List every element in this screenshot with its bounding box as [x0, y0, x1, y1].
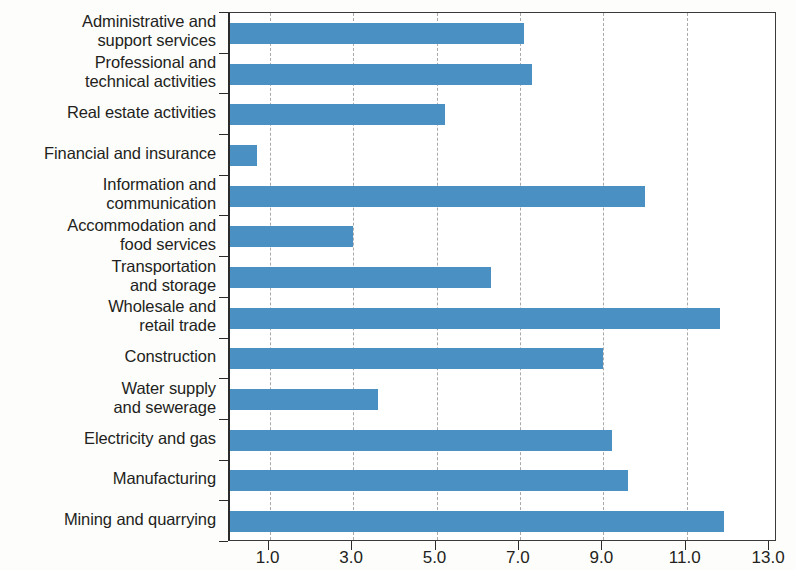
y-axis-tick	[219, 53, 228, 54]
category-label: Manufacturing	[0, 469, 216, 488]
category-label: Mining and quarrying	[0, 510, 216, 529]
x-axis-tick-label: 1.0	[233, 548, 303, 568]
y-axis-tick	[219, 215, 228, 216]
y-axis-tick	[219, 134, 228, 135]
category-label: Electricity and gas	[0, 429, 216, 448]
category-label: Transportation and storage	[0, 257, 216, 295]
x-axis-tick-label: 9.0	[566, 548, 636, 568]
bar	[230, 348, 603, 369]
bar	[230, 104, 445, 125]
bar	[230, 511, 724, 532]
bar	[230, 308, 720, 329]
category-label: Accommodation and food services	[0, 216, 216, 254]
bar	[230, 64, 532, 85]
gridline	[603, 13, 604, 540]
horizontal-bar-chart: Administrative and support servicesProfe…	[0, 0, 796, 570]
bar	[230, 186, 645, 207]
y-axis-tick	[219, 338, 228, 339]
y-axis-tick	[219, 175, 228, 176]
bar	[230, 267, 491, 288]
bar	[230, 145, 257, 166]
gridline	[687, 13, 688, 540]
category-label: Real estate activities	[0, 103, 216, 122]
x-axis-tick-label: 11.0	[650, 548, 720, 568]
category-label: Information and communication	[0, 175, 216, 213]
category-label: Wholesale and retail trade	[0, 297, 216, 335]
y-axis-tick	[219, 460, 228, 461]
x-axis-tick-label: 7.0	[483, 548, 553, 568]
gridline	[520, 13, 521, 540]
category-label: Water supply and sewerage	[0, 379, 216, 417]
bar	[230, 470, 628, 491]
x-axis-tick-label: 3.0	[316, 548, 386, 568]
x-axis-tick-label: 5.0	[400, 548, 470, 568]
category-label: Financial and insurance	[0, 144, 216, 163]
y-axis-tick	[219, 500, 228, 501]
category-label: Administrative and support services	[0, 12, 216, 50]
y-axis-tick	[219, 541, 228, 542]
bar	[230, 226, 353, 247]
bar	[230, 23, 524, 44]
category-label: Construction	[0, 347, 216, 366]
bar	[230, 430, 612, 451]
x-axis-tick-label: 13.0	[733, 548, 796, 568]
category-label: Professional and technical activities	[0, 53, 216, 91]
y-axis-tick	[219, 256, 228, 257]
y-axis-tick	[219, 93, 228, 94]
y-axis-tick	[219, 378, 228, 379]
plot-area	[228, 12, 776, 541]
y-axis-tick	[219, 419, 228, 420]
y-axis-tick	[219, 12, 228, 13]
category-label-column: Administrative and support servicesProfe…	[0, 0, 222, 541]
y-axis-tick	[219, 297, 228, 298]
bar	[230, 389, 378, 410]
